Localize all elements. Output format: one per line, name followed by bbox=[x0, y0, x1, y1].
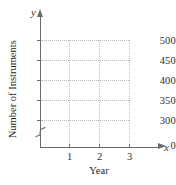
y-axis-tick bbox=[37, 100, 41, 101]
y-axis-variable-letter: y bbox=[31, 7, 36, 18]
x-axis-tick bbox=[129, 144, 130, 148]
chart-figure: y x 500 450 400 350 300 0 1 2 3 Number o… bbox=[0, 0, 176, 185]
y-axis-tick bbox=[37, 60, 41, 61]
gridline-vertical bbox=[69, 40, 71, 147]
y-axis-title: Number of Instruments bbox=[8, 24, 19, 154]
gridline-vertical bbox=[99, 40, 101, 147]
x-axis-tick bbox=[99, 144, 100, 148]
y-axis-arrow-icon bbox=[37, 9, 43, 17]
gridline-horizontal bbox=[41, 60, 129, 62]
y-axis-tick-label: 500 bbox=[140, 36, 176, 47]
y-axis-tick bbox=[37, 120, 41, 121]
y-axis-tick-label: 350 bbox=[140, 96, 176, 107]
gridline-horizontal bbox=[41, 80, 129, 82]
gridline-horizontal bbox=[41, 120, 129, 122]
y-axis-tick-label: 300 bbox=[140, 116, 176, 127]
y-axis-tick-label: 450 bbox=[140, 56, 176, 67]
gridline-vertical bbox=[129, 40, 131, 147]
x-axis-title: Year bbox=[40, 166, 158, 177]
y-axis-tick-label: 400 bbox=[140, 76, 176, 87]
x-axis-tick-label: 3 bbox=[122, 152, 138, 163]
y-axis-break-icon bbox=[35, 126, 46, 138]
x-axis-tick-label: 2 bbox=[92, 152, 108, 163]
x-axis-tick bbox=[69, 144, 70, 148]
y-axis-tick bbox=[37, 40, 41, 41]
y-axis-origin-label: 0 bbox=[140, 141, 176, 152]
gridline-horizontal bbox=[41, 40, 129, 42]
y-axis-tick bbox=[37, 80, 41, 81]
gridline-horizontal bbox=[41, 100, 129, 102]
x-axis-tick-label: 1 bbox=[62, 152, 78, 163]
